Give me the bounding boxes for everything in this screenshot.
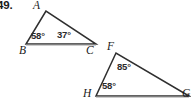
geometry-figure-container: 49. A B C 58° 37° F H G 85° 58° <box>0 0 191 111</box>
vertex-label-c: C <box>86 45 94 57</box>
angle-label-h: 58° <box>102 81 116 91</box>
vertex-label-a: A <box>33 0 40 12</box>
vertex-label-g: G <box>182 88 190 100</box>
angle-label-f: 85° <box>117 62 131 72</box>
vertex-label-f: F <box>107 41 114 53</box>
angle-label-c: 37° <box>57 30 71 40</box>
vertex-label-h: H <box>83 88 91 100</box>
triangles-diagram <box>0 0 191 111</box>
angle-label-b: 58° <box>31 31 45 41</box>
vertex-label-b: B <box>19 45 26 57</box>
